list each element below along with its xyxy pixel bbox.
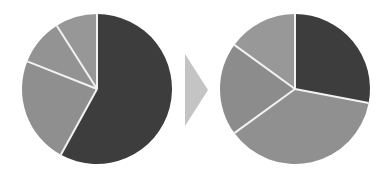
pie-chart-after [220,14,370,164]
pie-comparison-figure [0,0,389,172]
pie-chart-before [22,14,172,164]
arrow-right-icon [185,54,208,126]
pie-slice [295,14,370,103]
